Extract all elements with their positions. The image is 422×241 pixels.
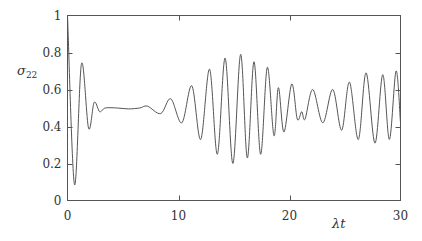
y-tick-label: 0.8 (42, 46, 61, 60)
chart: 010203000.20.40.60.81 σ22 λt (0, 0, 422, 241)
tick-labels: 010203000.20.40.60.81 (42, 9, 408, 224)
x-tick-label: 30 (393, 209, 408, 223)
y-tick-label: 0 (54, 194, 62, 208)
x-axis-label: λt (331, 216, 346, 231)
y-axis-label: σ22 (17, 63, 37, 80)
y-tick-label: 1 (54, 9, 62, 23)
series-line-sigma22 (68, 16, 401, 185)
y-tick-label: 0.4 (42, 120, 61, 134)
x-tick-label: 10 (171, 209, 186, 223)
y-tick-label: 0.6 (42, 83, 61, 97)
y-tick-label: 0.2 (42, 157, 61, 171)
x-tick-label: 20 (282, 209, 297, 223)
x-tick-label: 0 (64, 209, 72, 223)
